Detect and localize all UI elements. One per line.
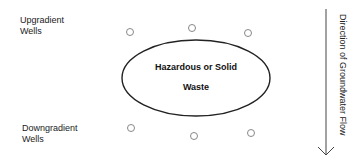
well-icon [245, 30, 252, 37]
waste-label: Hazardous or Solid Waste [140, 62, 252, 92]
well-icon [128, 125, 135, 132]
upgradient-wells [127, 25, 252, 37]
well-icon [248, 130, 255, 137]
well-icon [191, 133, 198, 140]
well-icon [127, 29, 134, 36]
downgradient-wells [128, 125, 255, 140]
waste-line-1: Hazardous or Solid [140, 62, 252, 72]
flow-arrow-icon [318, 9, 334, 155]
waste-line-2: Waste [140, 82, 252, 92]
flow-direction-label: Direction of Groundwater Flow [338, 14, 348, 136]
well-icon [189, 25, 196, 32]
